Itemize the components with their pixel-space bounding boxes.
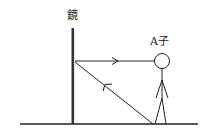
- mirror: [72, 28, 75, 124]
- head-icon: [155, 54, 170, 69]
- person-label: A子: [150, 36, 169, 47]
- mirror-label: 鏡: [67, 10, 78, 21]
- right-arm: [162, 80, 168, 98]
- mirror-reflection-diagram: [0, 0, 204, 130]
- left-arm: [156, 80, 162, 98]
- right-leg: [162, 98, 166, 124]
- person-a-figure: [155, 54, 170, 125]
- ray-diagonal: [75, 62, 153, 124]
- left-leg: [155, 98, 162, 124]
